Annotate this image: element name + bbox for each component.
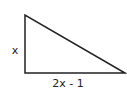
horizontal-leg-label: 2x - 1 (52, 77, 83, 90)
right-triangle-shape (25, 15, 125, 73)
triangle-diagram: x 2x - 1 (0, 0, 127, 99)
vertical-leg-label: x (12, 44, 19, 57)
